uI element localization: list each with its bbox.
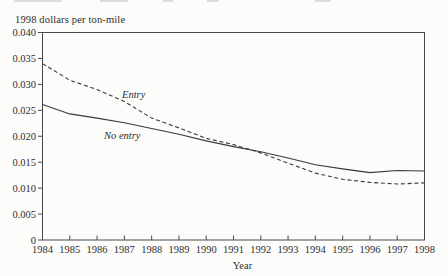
x-tick-label: 1991 <box>223 244 244 255</box>
y-tick-label: 0.015 <box>12 157 36 168</box>
y-tick-label: 0.030 <box>12 79 36 90</box>
chart-canvas: 00.0050.0100.0150.0200.0250.0300.0350.04… <box>0 0 448 276</box>
series-line-no-entry <box>43 105 425 173</box>
x-tick-label: 1998 <box>414 244 435 255</box>
line-chart-figure: 1998 dollars per ton-mile 00.0050.0100.0… <box>0 0 448 276</box>
y-tick-label: 0.040 <box>12 27 36 38</box>
x-tick-label: 1989 <box>168 244 189 255</box>
x-tick-label: 1988 <box>141 244 162 255</box>
x-tick-label: 1987 <box>114 244 135 255</box>
x-tick-label: 1992 <box>250 244 271 255</box>
series-label-entry: Entry <box>122 89 145 100</box>
x-tick-label: 1994 <box>305 244 327 255</box>
x-tick-label: 1996 <box>359 244 380 255</box>
y-tick-label: 0.025 <box>12 105 36 116</box>
series-label-no-entry: No entry <box>104 130 140 141</box>
y-tick-label: 0.005 <box>12 209 36 220</box>
x-tick-label: 1993 <box>278 244 299 255</box>
y-tick-label: 0.035 <box>12 53 36 64</box>
x-tick-label: 1985 <box>59 244 80 255</box>
x-axis-title: Year <box>212 260 273 271</box>
plot-frame <box>43 33 425 241</box>
y-tick-label: 0.010 <box>12 183 36 194</box>
y-tick-label: 0.020 <box>12 131 36 142</box>
x-tick-label: 1984 <box>32 244 54 255</box>
series-line-entry <box>43 64 425 184</box>
x-tick-label: 1997 <box>387 244 408 255</box>
x-tick-label: 1995 <box>332 244 353 255</box>
x-tick-label: 1990 <box>196 244 217 255</box>
x-tick-label: 1986 <box>87 244 108 255</box>
